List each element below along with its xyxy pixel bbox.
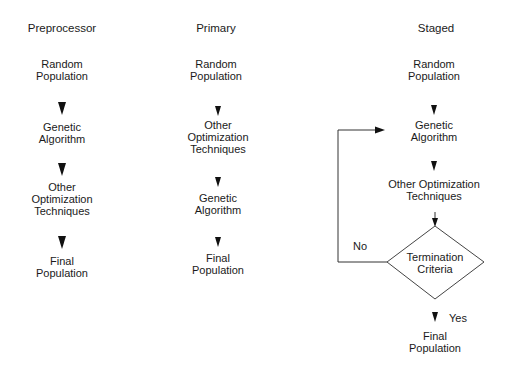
step-text: Final <box>409 330 461 342</box>
step-text: Population <box>409 342 461 354</box>
step-text: Other Optimization <box>388 178 480 190</box>
no-label: No <box>353 240 367 252</box>
step-text: Criteria <box>407 263 464 275</box>
column-title-staged: Staged <box>418 22 454 34</box>
step-text: Population <box>408 70 460 82</box>
step-final-population: Final Population <box>409 330 461 354</box>
arrow-down-icon <box>431 161 437 171</box>
arrow-down-icon <box>431 105 437 115</box>
step-text: Genetic <box>411 119 457 131</box>
decision-termination-criteria: Termination Criteria <box>407 251 464 275</box>
step-text: Random <box>408 58 460 70</box>
step-other-optimization: Other Optimization Techniques <box>388 178 480 202</box>
step-text: Algorithm <box>411 131 457 143</box>
yes-label: Yes <box>449 312 467 324</box>
step-text: Termination <box>407 251 464 263</box>
step-random-population: Random Population <box>408 58 460 82</box>
arrow-down-icon <box>432 312 438 322</box>
step-text: Techniques <box>388 190 480 202</box>
step-genetic-algorithm: Genetic Algorithm <box>411 119 457 143</box>
